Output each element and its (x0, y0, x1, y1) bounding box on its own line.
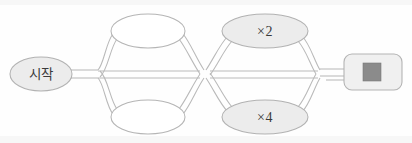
track-cross-to-upperright (206, 36, 232, 75)
multiplier-2-label: ×2 (257, 24, 273, 39)
railroad-diagram: 시작 ×2 ×4 (0, 0, 412, 143)
multiplier-4-label: ×4 (257, 110, 273, 125)
track-group (71, 34, 345, 114)
stop-square-icon (363, 63, 381, 81)
upper-left-ellipse-shape (111, 14, 185, 48)
scan-edge-bottom (0, 136, 412, 143)
track-right-middle (210, 71, 318, 78)
track-left-middle (98, 71, 200, 78)
node-upper-right[interactable]: ×2 (222, 14, 308, 48)
diagram-canvas: 시작 ×2 ×4 (0, 0, 412, 143)
track-lowerleft-to-cross (179, 74, 204, 114)
node-start[interactable]: 시작 (10, 57, 72, 91)
node-upper-left[interactable] (111, 14, 185, 48)
node-lower-left[interactable] (111, 100, 185, 134)
scan-edge-top (0, 0, 412, 5)
track-upperleft-to-cross (179, 34, 204, 74)
track-start-stub (71, 70, 98, 78)
track-left-lower (98, 71, 117, 114)
node-lower-right[interactable]: ×4 (222, 100, 308, 134)
node-end[interactable] (344, 54, 402, 90)
track-end-stub (320, 69, 345, 80)
lower-left-ellipse-shape (111, 100, 185, 134)
start-label: 시작 (29, 67, 53, 82)
track-upperright-to-end (298, 36, 320, 74)
track-cross-to-lowerright (206, 73, 232, 112)
track-lowerright-to-end (298, 74, 320, 112)
